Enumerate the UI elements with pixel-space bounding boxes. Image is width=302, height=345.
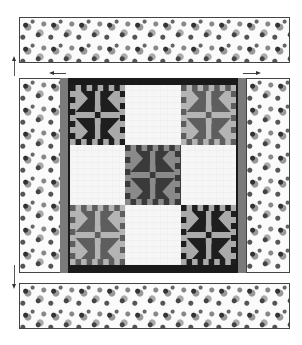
plain-block [125, 85, 180, 145]
arrow-down-head-icon [12, 284, 16, 289]
pieced-block-pattern-icon [70, 85, 125, 145]
arrow-right-head-icon [256, 71, 261, 75]
plain-block [125, 205, 180, 265]
arrow-left-icon [52, 73, 66, 74]
arrow-up-head-icon [12, 56, 16, 61]
plain-block [70, 145, 125, 205]
floral-border-bottom [19, 283, 290, 329]
plain-block [181, 145, 236, 205]
pieced-block-pattern-icon [125, 145, 180, 205]
arrow-left-head-icon [49, 71, 54, 75]
pieced-block [125, 145, 180, 205]
pieced-block-pattern-icon [181, 205, 236, 265]
pieced-block [181, 85, 236, 145]
floral-border-left [19, 78, 61, 273]
floral-border-right [246, 78, 290, 273]
arrow-down-icon [14, 265, 15, 285]
arrow-right-icon [243, 73, 257, 74]
pieced-block [70, 205, 125, 265]
pieced-block-pattern-icon [181, 85, 236, 145]
pieced-block [181, 205, 236, 265]
block-grid [70, 85, 236, 265]
sashing-right [238, 78, 246, 273]
sashing-left [60, 78, 68, 273]
floral-border-top [19, 17, 290, 63]
pieced-block [70, 85, 125, 145]
pieced-block-pattern-icon [70, 205, 125, 265]
